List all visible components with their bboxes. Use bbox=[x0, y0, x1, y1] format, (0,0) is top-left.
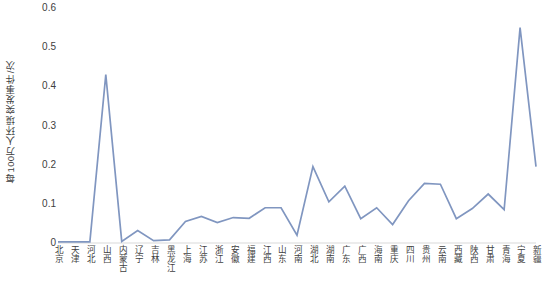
x-tick-label-text: 辽宁 bbox=[133, 245, 142, 263]
y-tick-label: 0.2 bbox=[22, 160, 56, 170]
x-tick-label: 甘肃 bbox=[481, 245, 495, 267]
x-tick-label: 云南 bbox=[433, 245, 447, 267]
x-tick-label-text: 安徽 bbox=[229, 245, 238, 263]
x-tick-label-text: 西藏 bbox=[452, 245, 461, 263]
x-tick-label: 福建 bbox=[242, 245, 256, 267]
x-tick-label: 天津 bbox=[67, 245, 81, 267]
x-tick-label-text: 甘肃 bbox=[484, 245, 493, 263]
x-tick-label-text: 湖北 bbox=[309, 245, 318, 263]
x-tick-label: 辽宁 bbox=[131, 245, 145, 267]
x-tick-label-text: 上海 bbox=[181, 245, 190, 263]
x-tick-label: 湖南 bbox=[322, 245, 336, 267]
x-tick-label: 内蒙古 bbox=[115, 245, 129, 276]
x-tick-label-text: 山东 bbox=[277, 245, 286, 263]
x-tick-label-text: 河北 bbox=[85, 245, 94, 263]
x-tick-label: 陕西 bbox=[465, 245, 479, 267]
series-line-environmental-incidents bbox=[58, 28, 536, 242]
x-tick-label: 新疆 bbox=[529, 245, 543, 267]
x-tick-label-text: 北京 bbox=[54, 245, 63, 263]
x-tick-label: 山西 bbox=[99, 245, 113, 267]
x-tick-label: 山东 bbox=[274, 245, 288, 267]
x-tick-label: 广西 bbox=[354, 245, 368, 267]
x-tick-label-text: 四川 bbox=[404, 245, 413, 263]
x-tick-label-text: 新疆 bbox=[532, 245, 541, 263]
x-tick-label: 上海 bbox=[178, 245, 192, 267]
y-tick-label: 0.4 bbox=[22, 81, 56, 91]
x-tick-label-text: 浙江 bbox=[213, 245, 222, 263]
x-tick-label: 海南 bbox=[370, 245, 384, 267]
x-tick-label-text: 广东 bbox=[340, 245, 349, 263]
x-tick-label-text: 河南 bbox=[293, 245, 302, 263]
x-tick-label: 北京 bbox=[51, 245, 65, 267]
x-tick-label-text: 重庆 bbox=[388, 245, 397, 263]
y-tick-label: 0.5 bbox=[22, 42, 56, 52]
x-tick-label-text: 福建 bbox=[245, 245, 254, 263]
x-tick-label: 吉林 bbox=[147, 245, 161, 267]
x-tick-label-text: 黑龙江 bbox=[165, 245, 174, 272]
x-tick-label-text: 宁夏 bbox=[516, 245, 525, 263]
x-tick-label: 黑龙江 bbox=[163, 245, 177, 276]
x-tick-label: 广东 bbox=[338, 245, 352, 267]
x-tick-label: 河北 bbox=[83, 245, 97, 267]
x-tick-label-text: 广西 bbox=[356, 245, 365, 263]
x-tick-label-text: 内蒙古 bbox=[117, 245, 126, 272]
x-tick-label-text: 湖南 bbox=[324, 245, 333, 263]
x-tick-label: 重庆 bbox=[386, 245, 400, 267]
x-tick-label-text: 海南 bbox=[372, 245, 381, 263]
x-tick-label: 浙江 bbox=[210, 245, 224, 267]
x-tick-label: 江苏 bbox=[194, 245, 208, 267]
x-tick-label-text: 陕西 bbox=[468, 245, 477, 263]
x-tick-label: 安徽 bbox=[226, 245, 240, 267]
x-tick-label: 宁夏 bbox=[513, 245, 527, 267]
x-tick-label: 湖北 bbox=[306, 245, 320, 267]
x-tick-label-text: 云南 bbox=[436, 245, 445, 263]
x-tick-label-text: 江苏 bbox=[197, 245, 206, 263]
y-tick-label: 0.6 bbox=[22, 3, 56, 13]
x-tick-label: 西藏 bbox=[449, 245, 463, 267]
x-tick-label: 贵州 bbox=[417, 245, 431, 267]
y-tick-label: 0.1 bbox=[22, 199, 56, 209]
series-canvas bbox=[58, 8, 536, 243]
x-tick-label-text: 贵州 bbox=[420, 245, 429, 263]
plot-area bbox=[58, 8, 536, 243]
x-tick-label: 青海 bbox=[497, 245, 511, 267]
x-tick-label: 河南 bbox=[290, 245, 304, 267]
x-tick-label: 江西 bbox=[258, 245, 272, 267]
x-tick-label-text: 天津 bbox=[70, 245, 79, 263]
x-tick-label-text: 江西 bbox=[261, 245, 270, 263]
x-tick-label-text: 青海 bbox=[500, 245, 509, 263]
x-tick-label: 四川 bbox=[402, 245, 416, 267]
y-axis-title-text: 每100万人环境突发事件/次 bbox=[4, 60, 18, 183]
x-tick-label-text: 山西 bbox=[101, 245, 110, 263]
x-axis-category-labels: 北京天津河北山西内蒙古辽宁吉林黑龙江上海江苏浙江安徽福建江西山东河南湖北湖南广东… bbox=[58, 245, 536, 298]
x-tick-label-text: 吉林 bbox=[149, 245, 158, 263]
y-tick-label: 0.3 bbox=[22, 121, 56, 131]
